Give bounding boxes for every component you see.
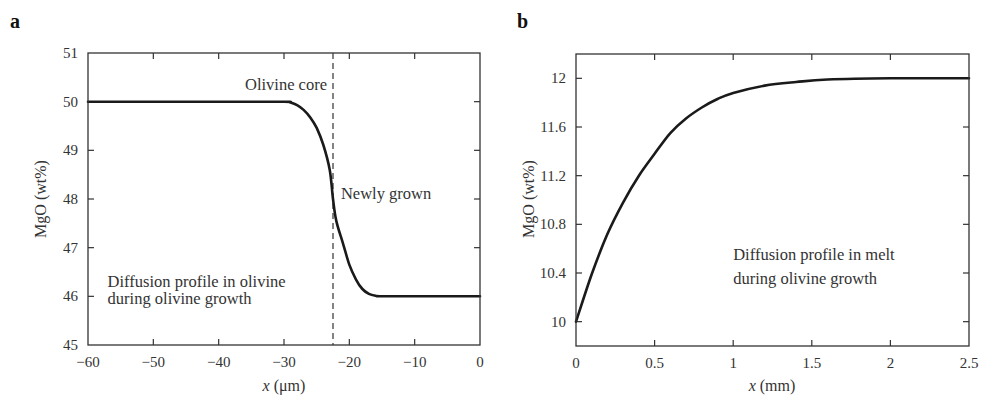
plot-frame-b [576,54,969,346]
chart-a: a MgO (wt%) −60−50−40−30−20−100454647484… [10,10,484,395]
y-axis-label-a: MgO (wt%) [32,160,50,238]
x-tick-label: −40 [207,354,230,370]
x-tick-label: −30 [272,354,295,370]
y-tick-label: 11.2 [540,168,566,184]
y-tick-label: 51 [63,45,78,61]
annotation-text: Diffusion profile in melt [733,245,895,264]
y-tick-label: 10 [551,314,566,330]
x-axis-title-b: x (mm) [748,377,796,395]
x-tick-label: −60 [76,354,99,370]
y-tick-label: 45 [63,337,78,353]
y-tick-label: 47 [63,240,79,256]
annotation-text: during olivine growth [733,269,878,288]
tick-labels-a: −60−50−40−30−20−10045464748495051 [63,45,484,370]
y-tick-label: 50 [63,94,78,110]
x-tick-label: 0 [476,354,484,370]
y-tick-label: 46 [63,288,79,304]
y-axis-title: MgO (wt%) [32,160,50,238]
chart-b: b MgO (wt%) 00.511.522.51010.410.811.211… [517,10,978,395]
annotation-text: Olivine core [245,75,327,94]
x-tick-label: −20 [338,354,361,370]
x-axis-title-a: x (μm) [262,377,306,395]
x-tick-label: 0 [572,355,580,371]
y-tick-label: 11.6 [540,119,566,135]
y-tick-label: 10.8 [540,216,566,232]
tick-labels-b: 00.511.522.51010.410.811.211.612 [540,70,979,371]
y-tick-label: 10.4 [540,265,567,281]
y-tick-label: 12 [551,70,566,86]
x-tick-label: 0.5 [645,355,664,371]
annotation-text: Newly grown [341,184,431,203]
x-tick-label: 2.5 [960,355,979,371]
x-tick-label: −10 [403,354,426,370]
x-tick-label: 1 [729,355,737,371]
y-axis-label-b: MgO (wt%) [520,160,538,238]
annotations-a: Olivine coreNewly grownDiffusion profile… [108,75,432,308]
y-tick-label: 48 [63,191,78,207]
annotations-b: Diffusion profile in meltduring olivine … [733,245,895,288]
y-axis-title: MgO (wt%) [520,160,538,238]
figure: a MgO (wt%) −60−50−40−30−20−100454647484… [0,0,1004,413]
x-tick-label: 2 [887,355,895,371]
x-tick-label: 1.5 [802,355,821,371]
tick-marks-b [576,54,969,346]
panel-label-b: b [517,10,528,32]
annotation-text: during olivine growth [108,289,253,308]
y-tick-label: 49 [63,142,78,158]
x-tick-label: −50 [142,354,165,370]
panel-label-a: a [10,10,20,32]
